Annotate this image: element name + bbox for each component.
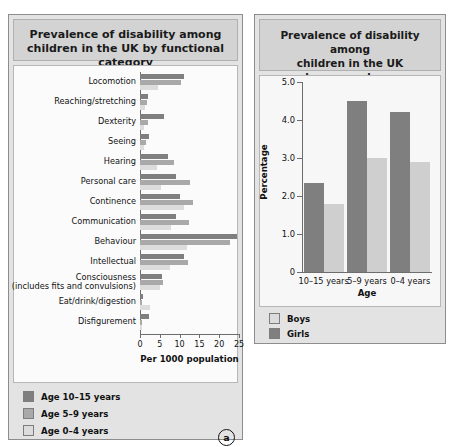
legend-swatch <box>23 408 34 419</box>
h-chart-category-label: Continence <box>90 197 136 206</box>
h-chart-x-tick <box>219 334 220 338</box>
panel-a: Prevalence of disability among children … <box>8 14 243 440</box>
h-chart-bar <box>140 260 188 265</box>
h-chart-x-tick-label: 5 <box>157 340 162 349</box>
legend-label: Girls <box>287 329 309 339</box>
legend-swatch <box>269 313 280 324</box>
v-chart-y-tick-label: 4.0 <box>282 115 295 125</box>
v-chart-x-axis-line <box>302 272 432 273</box>
h-chart-bar <box>140 85 158 90</box>
panel-b-legend: BoysGirls <box>269 313 310 343</box>
h-chart-x-tick-label: 10 <box>175 340 185 349</box>
h-chart-bar <box>140 325 142 330</box>
h-chart-bar <box>140 125 144 130</box>
h-chart-bar <box>140 140 146 145</box>
h-chart-bar <box>140 74 184 79</box>
h-chart-bar <box>140 220 189 225</box>
h-chart-category-label: Dexterity <box>98 117 136 126</box>
v-chart-bar-group <box>389 82 432 272</box>
h-chart-bar <box>140 180 190 185</box>
h-chart-bar <box>140 194 180 199</box>
h-chart-bar <box>140 214 176 219</box>
v-chart-bar <box>347 101 367 272</box>
h-chart-bar <box>140 114 164 119</box>
h-chart-x-tick-label: 15 <box>194 340 204 349</box>
h-chart-x-axis-line <box>140 334 239 335</box>
h-chart-category-label: Eat/drink/digestion <box>59 297 136 306</box>
figure-root: Prevalence of disability among children … <box>0 0 454 447</box>
h-chart-bar <box>140 80 181 85</box>
h-chart-bar <box>140 174 176 179</box>
legend-item: Boys <box>269 313 310 324</box>
legend-item: Age 0–4 years <box>23 425 120 436</box>
v-chart-y-tick-label: 1.0 <box>282 229 295 239</box>
h-chart-bar <box>140 105 145 110</box>
h-chart-x-tick <box>239 334 240 338</box>
h-chart-bar <box>140 294 143 299</box>
h-chart-bar <box>140 225 171 230</box>
legend-swatch <box>269 328 280 339</box>
h-chart-x-tick <box>140 334 141 338</box>
h-chart-category-label: Intellectual <box>90 257 136 266</box>
h-chart-category-label: Personal care <box>81 177 136 186</box>
v-chart-y-axis-title: Percentage <box>259 144 269 199</box>
legend-label: Age 5–9 years <box>41 409 108 419</box>
legend-item: Age 10–15 years <box>23 391 120 402</box>
h-chart-x-tick-label: 0 <box>137 340 142 349</box>
h-chart-bar <box>140 320 142 325</box>
h-chart-bar <box>140 240 230 245</box>
h-chart-category-label: Behaviour <box>94 237 136 246</box>
panel-b-title-line1: Prevalence of disability among <box>260 28 440 56</box>
h-chart-bar <box>140 274 162 279</box>
panel-a-title-line1: Prevalence of disability among <box>14 28 237 42</box>
legend-label: Age 0–4 years <box>41 426 108 436</box>
v-chart-category-label: 0–4 years <box>391 276 431 286</box>
vertical-bar-chart: Percentage 01.02.03.04.05.0 10–15 years5… <box>260 76 440 306</box>
h-chart-bar <box>140 265 170 270</box>
h-chart-bar <box>140 100 147 105</box>
h-chart-bar <box>140 134 149 139</box>
h-chart-bar <box>140 94 148 99</box>
panel-a-figure-tag: a <box>218 429 235 446</box>
h-chart-bar <box>140 120 148 125</box>
h-chart-x-axis-title: Per 1000 population <box>140 354 239 364</box>
v-chart-bar <box>304 183 324 272</box>
legend-item: Age 5–9 years <box>23 408 120 419</box>
v-chart-category-label: 10–15 years <box>299 276 349 286</box>
legend-label: Boys <box>287 314 310 324</box>
h-chart-bar <box>140 300 142 305</box>
h-chart-x-tick <box>160 334 161 338</box>
h-chart-x-tick <box>180 334 181 338</box>
h-chart-category-label: Hearing <box>104 157 136 166</box>
h-chart-bar <box>140 185 161 190</box>
h-chart-x-tick-label: 25 <box>234 340 244 349</box>
h-chart-bar <box>140 205 184 210</box>
h-chart-category-label: Reaching/stretching <box>54 97 136 106</box>
panel-b: Prevalence of disability among children … <box>254 14 446 344</box>
legend-label: Age 10–15 years <box>41 392 120 402</box>
h-chart-x-tick <box>199 334 200 338</box>
panel-b-title: Prevalence of disability among children … <box>259 19 441 71</box>
h-chart-bar <box>140 160 174 165</box>
h-chart-bar <box>140 200 193 205</box>
v-chart-bar <box>390 112 410 272</box>
h-chart-bar <box>140 165 157 170</box>
legend-swatch <box>23 425 34 436</box>
panel-a-legend: Age 10–15 yearsAge 5–9 yearsAge 0–4 year… <box>23 391 120 442</box>
h-chart-bar <box>140 254 184 259</box>
v-chart-category-label: 5–9 years <box>347 276 387 286</box>
v-chart-y-tick-label: 5.0 <box>282 77 295 87</box>
h-chart-category-label: Communication <box>71 217 136 226</box>
h-chart-category-label: Locomotion <box>88 77 136 86</box>
h-chart-bar <box>140 234 237 239</box>
v-chart-y-tick <box>297 272 302 273</box>
panel-a-plot-area: LocomotionReaching/stretchingDexteritySe… <box>13 65 238 383</box>
h-chart-category-label: Consciousness(includes fits and convulsi… <box>12 273 136 291</box>
h-chart-bar <box>140 280 163 285</box>
h-chart-bar <box>140 154 168 159</box>
h-chart-bar <box>140 145 144 150</box>
v-chart-y-tick-label: 2.0 <box>282 191 295 201</box>
panel-b-plot-area: Percentage 01.02.03.04.05.0 10–15 years5… <box>259 75 441 307</box>
panel-b-title-line2: children in the UK <box>260 56 440 70</box>
v-chart-y-tick-label: 3.0 <box>282 153 295 163</box>
